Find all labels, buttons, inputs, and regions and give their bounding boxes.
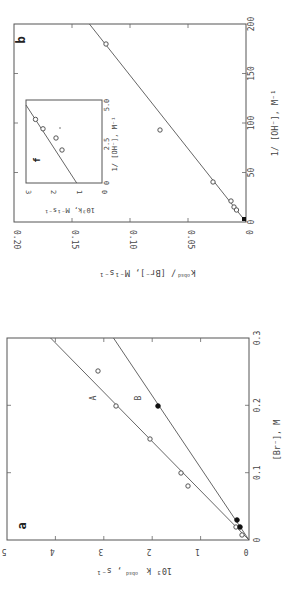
inset-frame: [26, 100, 102, 183]
panel-b-letter: b: [14, 36, 28, 43]
inset-xlabel: 1/ [OH⁻], M⁻¹: [111, 117, 119, 172]
tick-label: 0.20: [12, 230, 21, 249]
panel-b-xtick-labels: 0 50 100 150 200: [247, 17, 256, 225]
panel-b-frame: [14, 24, 246, 222]
tick-label: 0: [103, 181, 111, 185]
panel-a-yticks: [55, 338, 200, 540]
data-point: [234, 208, 238, 212]
tick-label: 0: [243, 547, 248, 556]
series-b-fit-line: [114, 338, 250, 540]
tick-label: 0: [100, 190, 108, 194]
tick-label: 0.1: [253, 465, 262, 480]
data-point: [186, 484, 190, 488]
tick-label: 0.3: [253, 331, 262, 346]
tick-label: 0: [247, 219, 256, 224]
inset-letter: f: [32, 157, 42, 162]
panel-a-ylabel: 10³ k obsd , s⁻¹: [96, 566, 172, 577]
tick-label: 200: [247, 17, 256, 32]
tick-label: 1: [75, 190, 83, 194]
ylabel-sub: obsd: [178, 273, 190, 279]
inset-data-point: [33, 117, 37, 121]
tick-label: 3: [98, 547, 103, 556]
tick-label: 0.05: [186, 230, 195, 249]
tick-label: 2.5: [103, 138, 111, 151]
tick-label: 2: [147, 547, 152, 556]
tick-label: 1: [195, 547, 200, 556]
panel-b-xlabel: 1/ [OH⁻], M⁻¹: [270, 90, 280, 157]
inset-f: f 0 2.5 5.0 1/ [OH⁻], M⁻¹ 0 1 2 3 10³k, …: [24, 99, 119, 214]
data-point: [158, 128, 162, 132]
inset-data-point: [41, 127, 45, 131]
ylabel-rest: / [Br⁻], M⁻¹s⁻¹: [99, 268, 176, 278]
panel-a-ytick-labels: 0 1 2 3 4 5: [1, 547, 248, 556]
tick-label: 100: [247, 116, 256, 131]
panel-a-xticks: [7, 405, 249, 472]
panel-b-xticks: [14, 74, 246, 173]
series-a-label: A: [89, 395, 98, 400]
panel-a-xtick-labels: 0 0.1 0.2 0.3: [253, 331, 262, 543]
tick-label: 0.15: [70, 230, 79, 249]
ylabel-main: 10³ k: [146, 566, 172, 576]
inset-xtick-labels: 0 2.5 5.0: [103, 99, 111, 185]
tick-label: 5.0: [103, 99, 111, 112]
panel-b-yticks: [72, 24, 188, 222]
panel-b-ylabel: k obsd / [Br⁻], M⁻¹s⁻¹: [99, 268, 196, 279]
data-point: [238, 525, 243, 530]
inset-fit-line: [26, 105, 77, 183]
data-point: [211, 180, 215, 184]
panel-a-xlabel: [Br⁻], M: [272, 420, 282, 461]
panel-a: 0 0.1 0.2 0.3 [Br⁻], M 0 1 2 3 4 5 10³ k…: [1, 331, 282, 577]
tick-label: 5: [1, 547, 6, 556]
tick-label: 0: [244, 230, 253, 235]
ylabel-unit: , s⁻¹: [96, 566, 122, 576]
data-point: [114, 404, 118, 408]
inset-dot: [59, 127, 60, 128]
panel-b: 0 50 100 150 200 1/ [OH⁻], M⁻¹ 0 0.05 0.…: [12, 17, 280, 279]
tick-label: 0.10: [128, 230, 137, 249]
tick-label: 3: [24, 190, 32, 194]
tick-label: 0.2: [253, 398, 262, 413]
panel-a-letter: a: [15, 522, 29, 529]
data-point: [96, 369, 100, 373]
panel-b-ytick-labels: 0 0.05 0.10 0.15 0.20: [12, 230, 253, 249]
figure-canvas: 0 50 100 150 200 1/ [OH⁻], M⁻¹ 0 0.05 0.…: [0, 0, 292, 593]
tick-label: 2: [49, 190, 57, 194]
data-point: [156, 404, 161, 409]
ylabel-sub: obsd: [126, 571, 138, 577]
data-point-origin: [242, 217, 246, 221]
tick-label: 50: [247, 168, 256, 178]
data-point: [179, 471, 183, 475]
panel-a-frame: [7, 338, 249, 540]
inset-ytick-labels: 0 1 2 3: [24, 190, 108, 194]
data-point: [235, 518, 240, 523]
tick-label: 4: [50, 547, 55, 556]
data-point: [240, 533, 244, 537]
data-point: [148, 437, 152, 441]
tick-label: 0: [253, 537, 262, 542]
data-point: [229, 199, 233, 203]
tick-label: 150: [247, 66, 256, 81]
inset-data-point: [54, 136, 58, 140]
ylabel-k: k: [191, 268, 196, 278]
data-point: [104, 42, 108, 46]
inset-ylabel: 10³k, M⁻¹s⁻¹: [44, 206, 95, 214]
series-b-label: B: [134, 395, 143, 400]
inset-data-point: [60, 148, 64, 152]
